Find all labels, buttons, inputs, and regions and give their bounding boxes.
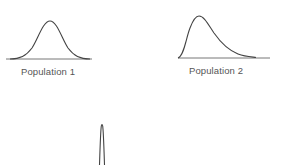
distribution-diagram (0, 0, 283, 165)
narrow-distribution-plot (100, 125, 105, 166)
narrow-distribution-curve (100, 125, 105, 166)
population-1-curve (10, 21, 90, 59)
population-2-curve (178, 16, 256, 58)
population-1-plot (6, 21, 92, 59)
population-1-label: Population 1 (21, 66, 75, 77)
population-2-label: Population 2 (189, 65, 243, 76)
population-2-plot (178, 16, 270, 58)
